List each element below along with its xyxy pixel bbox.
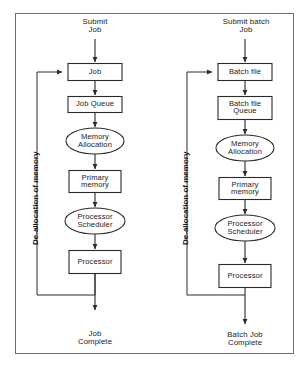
feedback-loop-deallocation: [37, 72, 69, 295]
label-primary-memory-batch: Primary memory: [219, 181, 271, 197]
label-processor-batch: Processor: [219, 272, 271, 280]
label-primary-memory: Primary memory: [69, 174, 121, 190]
label-batch-job-complete: Batch Job Complete: [205, 331, 285, 347]
label-job: Job: [68, 68, 122, 76]
label-job-queue: Job Queue: [68, 100, 122, 108]
label-deallocation-of-memory: De-allocation of memory: [31, 152, 40, 245]
label-batch-file-queue: Batch file Queue: [218, 100, 272, 116]
flowchart-diagram: Submit Job Job Job Queue Memory Allocati…: [0, 0, 306, 372]
label-job-complete: Job Complete: [57, 330, 133, 346]
label-memory-allocation-batch: Memory Allocation: [216, 140, 274, 156]
label-memory-allocation: Memory Allocation: [66, 133, 124, 149]
feedback-loop-deallocation-batch: [187, 72, 219, 295]
label-submit-batch-job: Submit batch Job: [205, 18, 287, 34]
label-processor: Processor: [69, 258, 121, 266]
label-batch-file: Batch file: [218, 68, 272, 76]
label-deallocation-of-memory-batch: De-allocation of memory: [181, 152, 190, 245]
label-submit-job: Submit Job: [55, 18, 135, 34]
label-processor-scheduler: Processor Scheduler: [65, 213, 125, 229]
label-processor-scheduler-batch: Processor Scheduler: [215, 220, 275, 236]
